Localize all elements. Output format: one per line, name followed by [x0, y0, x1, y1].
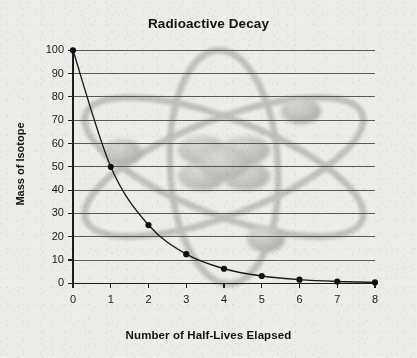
y-tick-label: 30: [30, 206, 64, 218]
data-point: [259, 273, 265, 279]
data-point: [221, 266, 227, 272]
data-point: [183, 251, 189, 257]
y-tick-label: 0: [30, 276, 64, 288]
x-axis-title: Number of Half-Lives Elapsed: [0, 329, 417, 341]
y-tick-label: 40: [30, 183, 64, 195]
x-tick-label: 3: [171, 293, 201, 305]
chart-title: Radioactive Decay: [0, 16, 417, 31]
y-tick-label: 70: [30, 113, 64, 125]
data-point: [145, 222, 151, 228]
y-axis-title: Mass of Isotope: [14, 104, 26, 224]
x-tick-label: 5: [247, 293, 277, 305]
data-point: [296, 277, 302, 283]
data-point: [108, 164, 114, 170]
y-tick-label: 100: [30, 43, 64, 55]
x-axis-ticks: [73, 283, 375, 288]
x-tick-label: 1: [96, 293, 126, 305]
y-tick-label: 50: [30, 160, 64, 172]
y-axis-ticks: [68, 50, 73, 283]
y-tick-label: 90: [30, 67, 64, 79]
x-tick-label: 4: [209, 293, 239, 305]
y-tick-label: 60: [30, 137, 64, 149]
x-tick-label: 6: [285, 293, 315, 305]
data-point: [372, 279, 378, 285]
y-tick-label: 10: [30, 253, 64, 265]
x-tick-label: 8: [360, 293, 390, 305]
radioactive-decay-chart: Radioactive Decay Number of Half-Lives E…: [0, 0, 417, 358]
atom-nucleus-icon: [178, 136, 270, 190]
y-tick-label: 20: [30, 230, 64, 242]
x-tick-label: 2: [134, 293, 164, 305]
data-point: [70, 47, 76, 53]
electron-bottom-icon: [247, 226, 285, 252]
x-tick-label: 7: [322, 293, 352, 305]
x-tick-label: 0: [58, 293, 88, 305]
data-point: [334, 278, 340, 284]
y-tick-label: 80: [30, 90, 64, 102]
